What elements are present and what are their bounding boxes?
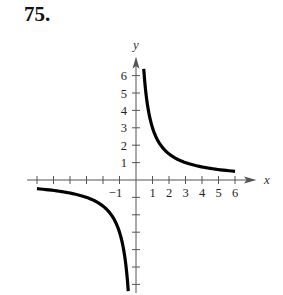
y-tick-label: 6 (121, 69, 127, 83)
left-branch-curve (37, 189, 128, 291)
x-tick-label: 4 (199, 186, 206, 200)
x-tick-label: 2 (166, 186, 172, 200)
hyperbola-graph: −1123456123456xy (0, 0, 283, 295)
x-axis-label: x (263, 172, 270, 187)
tick-labels: −1123456123456xy (109, 37, 270, 200)
y-tick-label: 3 (121, 121, 127, 135)
x-tick-label: −1 (109, 186, 122, 200)
x-tick-label: 1 (149, 186, 155, 200)
y-tick-label: 4 (121, 104, 128, 118)
axes (27, 56, 256, 293)
x-tick-label: 5 (215, 186, 221, 200)
y-tick-label: 5 (121, 87, 127, 101)
x-tick-label: 3 (182, 186, 188, 200)
x-tick-label: 6 (232, 186, 238, 200)
y-tick-label: 1 (121, 156, 127, 170)
y-tick-label: 2 (121, 139, 127, 153)
y-axis-label: y (131, 37, 139, 52)
right-branch-curve (144, 69, 235, 171)
